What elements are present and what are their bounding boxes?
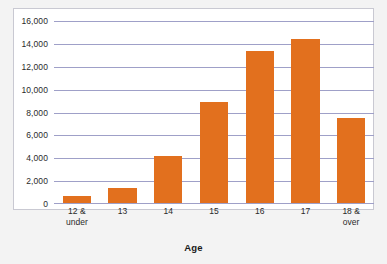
- x-axis-tick-label: 18 & over: [328, 206, 374, 228]
- bar: [246, 51, 274, 203]
- x-axis-tick-label: 13: [100, 206, 146, 217]
- x-axis-tick-label: 16: [237, 206, 283, 217]
- x-axis-line: [54, 203, 374, 204]
- y-axis-tick-label: 14,000: [4, 39, 48, 49]
- x-axis-title: Age: [0, 242, 387, 253]
- x-axis-tick-label: 12 & under: [54, 206, 100, 228]
- plot-area: [54, 21, 374, 204]
- y-axis-tick-label: 8,000: [4, 108, 48, 118]
- bar: [154, 156, 182, 203]
- bar: [108, 188, 136, 203]
- y-axis-tick-label: 0: [4, 199, 48, 209]
- y-axis-tick-label: 6,000: [4, 130, 48, 140]
- bars-group: [54, 21, 374, 204]
- bar: [337, 118, 365, 203]
- y-axis-tick-label: 2,000: [4, 176, 48, 186]
- y-axis-tick-label: 4,000: [4, 153, 48, 163]
- bar-chart-figure: 16,00014,00012,00010,0008,0006,0004,0002…: [0, 0, 387, 264]
- x-axis-tick-label: 17: [283, 206, 329, 217]
- x-axis-tick-label: 14: [145, 206, 191, 217]
- y-axis-tick-label: 12,000: [4, 62, 48, 72]
- x-axis-tick-label: 15: [191, 206, 237, 217]
- y-axis-tick-label: 16,000: [4, 16, 48, 26]
- bar: [200, 102, 228, 203]
- bar: [63, 196, 91, 203]
- bar: [291, 39, 319, 203]
- y-axis-tick-label: 10,000: [4, 85, 48, 95]
